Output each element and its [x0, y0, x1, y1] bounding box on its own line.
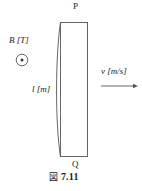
arrow-right-icon — [101, 84, 138, 88]
conducting-bar — [57, 23, 88, 158]
label-terminal-q: Q — [72, 160, 79, 169]
velocity-arrow-head — [133, 84, 138, 88]
label-velocity: v [m/s] — [101, 67, 127, 76]
caption-kanji: 図 — [49, 172, 58, 182]
figure-caption: 図 7.11 — [49, 172, 79, 182]
field-center-dot — [21, 59, 24, 62]
label-length: l [m] — [32, 85, 50, 94]
label-terminal-p: P — [73, 2, 78, 11]
figure-container: P Q B [T] l [m] v [m/s] 図 7.11 — [0, 0, 142, 191]
label-magnetic-field: B [T] — [9, 36, 29, 45]
bar-left-arc — [57, 23, 61, 158]
diagram-canvas — [0, 0, 142, 191]
circle-dot-icon — [16, 54, 28, 66]
caption-number: 7.11 — [58, 171, 78, 182]
